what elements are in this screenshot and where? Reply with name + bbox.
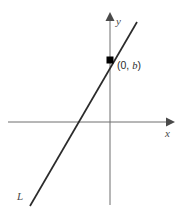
- line-graph-figure: y x L (0, b): [0, 0, 184, 213]
- y-axis-arrowhead: [106, 12, 115, 21]
- y-intercept-label-open: (0,: [117, 59, 132, 71]
- y-axis-label: y: [115, 15, 121, 27]
- line-l-label: L: [16, 190, 23, 202]
- y-intercept-label: (0, b): [117, 59, 141, 71]
- y-intercept-point-marker: [107, 57, 114, 64]
- line-l: [30, 22, 137, 206]
- y-intercept-label-close: ): [137, 59, 141, 71]
- x-axis-arrowhead: [166, 118, 175, 127]
- x-axis-label: x: [164, 127, 170, 139]
- coordinate-plane-svg: y x L (0, b): [0, 0, 184, 213]
